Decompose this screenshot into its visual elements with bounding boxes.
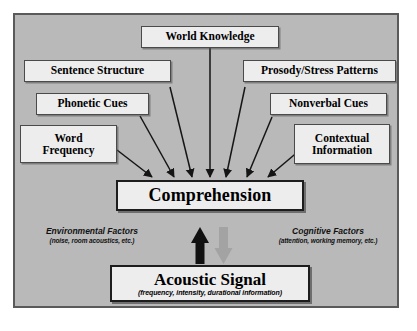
annotation-title: Environmental Factors [22,226,162,236]
node-label-line2: Frequency [42,144,94,156]
annotation-cognitive-factors: Cognitive Factors (attention, working me… [258,226,398,244]
node-label-line1: Word [54,132,82,144]
node-label: Phonetic Cues [58,98,128,110]
node-world-knowledge[interactable]: World Knowledge [141,26,279,48]
node-acoustic-signal[interactable]: Acoustic Signal (frequency, intensity, d… [110,265,310,302]
annotation-title: Cognitive Factors [258,226,398,236]
node-word-frequency[interactable]: Word Frequency [20,125,117,163]
diagram-canvas: World Knowledge Sentence Structure Proso… [0,0,417,331]
node-label: Sentence Structure [51,65,144,77]
node-comprehension[interactable]: Comprehension [116,180,304,211]
node-contextual-information[interactable]: Contextual Information [294,124,390,164]
node-label: Prosody/Stress Patterns [261,65,378,77]
annotation-sub: (noise, room acoustics, etc.) [22,237,162,244]
comprehension-label: Comprehension [149,186,272,204]
node-label: World Knowledge [165,31,254,43]
acoustic-signal-label: Acoustic Signal [154,271,266,288]
node-label-line2: Information [312,144,372,156]
node-phonetic-cues[interactable]: Phonetic Cues [36,93,149,115]
node-label: Nonverbal Cues [289,98,368,110]
acoustic-signal-sublabel: (frequency, intensity, durational inform… [138,289,282,296]
node-sentence-structure[interactable]: Sentence Structure [24,60,171,82]
node-label-line1: Contextual [315,132,369,144]
annotation-environmental-factors: Environmental Factors (noise, room acous… [22,226,162,244]
node-prosody-stress[interactable]: Prosody/Stress Patterns [243,60,396,82]
node-nonverbal-cues[interactable]: Nonverbal Cues [270,93,387,115]
annotation-sub: (attention, working memory, etc.) [258,237,398,244]
